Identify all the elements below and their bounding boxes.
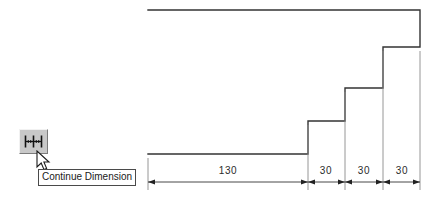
arrowhead-right-345 — [345, 179, 352, 184]
arrowhead-right-383 — [383, 179, 390, 184]
part-outline — [148, 10, 420, 154]
arrowhead-right-148 — [148, 179, 155, 184]
arrowhead-left-308 — [301, 179, 308, 184]
tooltip-continue-dimension: Continue Dimension — [38, 169, 136, 186]
continue-dimension-icon — [23, 134, 44, 149]
continue-dimension-button[interactable] — [19, 129, 48, 154]
dimension-label-30-c: 30 — [396, 166, 408, 176]
arrowhead-left-383 — [376, 179, 383, 184]
dimension-label-130: 130 — [219, 166, 238, 176]
cad-screenshot: 130 30 30 30 Continue Dimension — [0, 0, 435, 197]
arrowhead-right-308 — [308, 179, 315, 184]
dimension-label-30-a: 30 — [320, 166, 332, 176]
extension-lines — [148, 51, 420, 190]
arrowhead-left-345 — [338, 179, 345, 184]
arrowhead-left-420 — [413, 179, 420, 184]
dimension-label-30-b: 30 — [358, 166, 370, 176]
